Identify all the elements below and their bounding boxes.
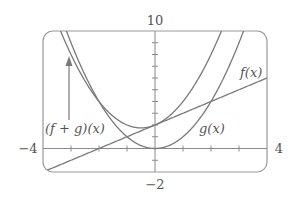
xmax-label: 4: [275, 141, 283, 156]
xmin-label: −4: [18, 141, 37, 156]
f-label: f(x): [239, 65, 262, 80]
ymax-label: 10: [147, 13, 164, 28]
arrow-icon: [66, 56, 73, 120]
fg-label: (f + g)(x): [45, 121, 105, 136]
axes: [43, 31, 267, 172]
g-label: g(x): [199, 121, 225, 136]
graph-canvas: 10 −2 −4 4 f(x) g(x) (f + g)(x): [0, 0, 293, 202]
ymin-label: −2: [145, 177, 164, 192]
